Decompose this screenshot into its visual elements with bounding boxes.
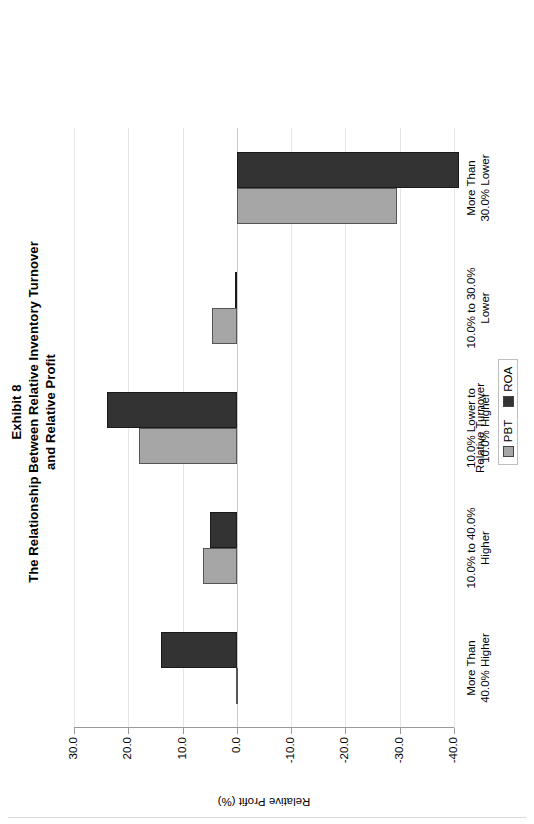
page-bottom-rule — [8, 817, 526, 818]
value-axis-tick — [291, 728, 292, 734]
bar-pbt[interactable] — [203, 548, 237, 584]
value-axis-tick-label: -10.0 — [285, 737, 297, 763]
value-axis-tick-label: -30.0 — [394, 737, 406, 763]
value-axis-tick-label: 0.0 — [231, 737, 243, 753]
legend: PBTROA — [498, 0, 518, 824]
bar-group: 10.0% Lower to 10.0% Higher — [74, 368, 454, 488]
bar-roa[interactable] — [237, 152, 460, 188]
value-axis-tick-label: 20.0 — [123, 737, 135, 759]
bar-roa[interactable] — [161, 632, 237, 668]
value-axis-tick-label: -20.0 — [340, 737, 352, 763]
bar-pbt[interactable] — [139, 428, 237, 464]
value-axis-tick-label: -40.0 — [448, 737, 460, 763]
legend-swatch-icon — [503, 446, 514, 457]
legend-label: PBT — [502, 420, 514, 442]
chart-page: Exhibit 8 The Relationship Between Relat… — [0, 0, 534, 824]
legend-item-pbt[interactable]: PBT — [502, 420, 514, 457]
legend-item-roa[interactable]: ROA — [502, 367, 514, 407]
chart-title: Exhibit 8 The Relationship Between Relat… — [8, 0, 59, 824]
value-axis-tick — [183, 728, 184, 734]
value-axis-tick — [74, 728, 75, 734]
bar-group: More Than 40.0% Higher — [74, 608, 454, 728]
value-axis-title: Relative Profit (%) — [218, 796, 311, 808]
bar-roa[interactable] — [235, 272, 237, 308]
bar-pbt[interactable] — [237, 188, 397, 224]
value-axis-tick — [400, 728, 401, 734]
plot-area: Relative Profit (%) 30.020.010.00.0-10.0… — [74, 128, 454, 728]
value-axis-tick — [454, 728, 455, 734]
value-axis-tick-label: 30.0 — [68, 737, 80, 759]
legend-swatch-icon — [503, 396, 514, 407]
gridline — [454, 128, 455, 728]
legend-box: PBTROA — [498, 359, 518, 465]
bar-group: More Than 30.0% Lower — [74, 128, 454, 248]
bar-group: 10.0% to 30.0% Lower — [74, 248, 454, 368]
legend-label: ROA — [502, 367, 514, 392]
value-axis-tick — [128, 728, 129, 734]
value-axis-tick — [237, 728, 238, 734]
value-axis-tick — [345, 728, 346, 734]
bar-roa[interactable] — [107, 392, 237, 428]
bar-pbt[interactable] — [212, 308, 237, 344]
category-axis-title: Relative Turnover — [474, 128, 486, 728]
bar-pbt[interactable] — [236, 668, 238, 704]
title-main-line-2: and Relative Profit — [42, 0, 59, 824]
bar-roa[interactable] — [210, 512, 237, 548]
rotated-chart-stage: Exhibit 8 The Relationship Between Relat… — [0, 0, 534, 824]
bar-group: 10.0% to 40.0% Higher — [74, 488, 454, 608]
title-exhibit-number: Exhibit 8 — [8, 0, 25, 824]
value-axis-tick-label: 10.0 — [177, 737, 189, 759]
title-main-line-1: The Relationship Between Relative Invent… — [25, 0, 42, 824]
